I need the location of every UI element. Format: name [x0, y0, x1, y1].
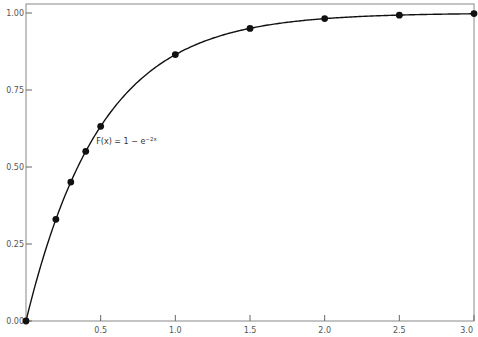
data-markers	[23, 10, 478, 324]
data-point	[97, 123, 104, 130]
x-tick-label: 3.0	[460, 326, 473, 335]
cdf-chart: 0.000.250.500.751.00 0.51.01.52.02.53.0 …	[0, 0, 478, 337]
y-tick-label: 1.00	[6, 9, 24, 18]
data-point	[23, 318, 30, 325]
y-tick-label: 0.50	[6, 163, 24, 172]
data-point	[67, 179, 74, 186]
x-tick-label: 1.5	[244, 326, 257, 335]
y-tick-label: 0.75	[6, 86, 24, 95]
x-tick-label: 2.0	[318, 326, 331, 335]
y-tick-label: 0.00	[6, 317, 24, 326]
plot-frame	[26, 4, 474, 321]
y-axis-ticks: 0.000.250.500.751.00	[6, 9, 32, 326]
data-point	[247, 25, 254, 32]
x-tick-label: 0.5	[94, 326, 107, 335]
data-point	[82, 148, 89, 155]
y-tick-label: 0.25	[6, 240, 24, 249]
x-tick-label: 2.5	[393, 326, 406, 335]
data-point	[396, 12, 403, 19]
function-annotation: F(x) = 1 − e−2x	[96, 136, 157, 146]
data-point	[471, 10, 478, 17]
data-point	[321, 15, 328, 22]
x-axis-ticks: 0.51.01.52.02.53.0	[94, 315, 474, 335]
cdf-curve	[26, 14, 474, 321]
x-tick-label: 1.0	[169, 326, 182, 335]
data-point	[52, 216, 59, 223]
data-point	[172, 51, 179, 58]
